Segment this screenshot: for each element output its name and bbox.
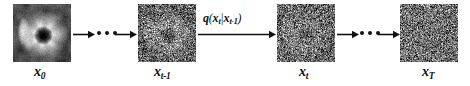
patch-label-sub: t-1	[161, 71, 171, 81]
ellipsis-dot	[368, 31, 372, 35]
image-patch-xt-1	[138, 4, 196, 62]
patch-label-sub: T	[429, 71, 435, 81]
arrow-right-icon	[115, 29, 137, 40]
image-patch-xt-canvas	[277, 4, 335, 62]
patch-label-xt: xt	[299, 64, 308, 81]
ellipsis-dot	[105, 31, 109, 35]
transition-probability-label: q(xt|xt-1)	[203, 11, 241, 26]
image-patch-xT	[400, 4, 458, 62]
arrow-right-icon	[73, 29, 95, 40]
image-patch-x0-canvas	[13, 4, 71, 62]
ellipsis-dot	[360, 31, 364, 35]
patch-label-base: x	[34, 64, 41, 79]
patch-label-base: x	[154, 64, 161, 79]
diffusion-figure: q(xt|xt-1) x0 xt-1 xt xT	[0, 0, 470, 86]
transition-arrow-icon	[198, 29, 276, 40]
image-patch-xT-canvas	[400, 4, 458, 62]
patch-label-base: x	[299, 64, 306, 79]
image-patch-xt	[277, 4, 335, 62]
ellipsis-horizontal-icon	[97, 31, 117, 35]
image-patch-x0	[13, 4, 71, 62]
arrow-right-icon	[378, 29, 400, 40]
image-patch-xt-1-canvas	[138, 4, 196, 62]
ellipsis-dot	[97, 31, 101, 35]
transition-close-paren: )	[238, 11, 242, 25]
patch-label-base: x	[422, 64, 429, 79]
arrow-right-icon	[337, 29, 359, 40]
patch-label-sub: t	[306, 71, 308, 81]
patch-label-sub: 0	[41, 71, 45, 81]
ellipsis-horizontal-icon	[360, 31, 380, 35]
patch-label-xT: xT	[422, 64, 434, 81]
patch-label-xt-1: xt-1	[154, 64, 170, 81]
transition-source-sub: t-1	[229, 17, 237, 26]
patch-label-x0: x0	[34, 64, 45, 81]
